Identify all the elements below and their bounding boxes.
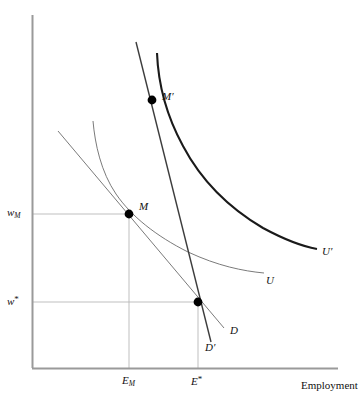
chart-canvas — [0, 0, 364, 403]
axes — [32, 15, 338, 369]
curve-label-u: U — [266, 275, 274, 286]
x-tick-label-e-m: EM — [122, 375, 135, 388]
curve-label-u-prime: U′ — [322, 246, 332, 257]
curve-u — [93, 121, 264, 273]
curve-label-d-prime: D′ — [205, 342, 215, 353]
economics-chart: wM w* EM E* Employment M M′ U U′ D D′ — [0, 0, 364, 403]
point-e-star — [194, 298, 203, 307]
x-tick-label-e-star: E* — [191, 375, 202, 387]
y-tick-label-w-m: wM — [7, 207, 21, 220]
curve-d-prime — [136, 42, 211, 342]
point-m-prime — [148, 96, 157, 105]
point-label-m: M — [139, 201, 148, 212]
y-tick-label-w-star: w* — [7, 295, 19, 307]
curve-label-d: D — [230, 325, 238, 336]
point-label-m-prime: M′ — [162, 91, 174, 102]
guide-lines — [32, 214, 198, 368]
x-axis-title: Employment — [301, 380, 358, 391]
data-points — [125, 96, 203, 307]
point-m — [125, 210, 134, 219]
